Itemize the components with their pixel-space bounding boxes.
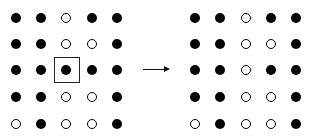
right-cell-r3c4-filled-dot-icon (291, 92, 301, 102)
right-cell-r4c0-hollow-dot-icon (190, 119, 200, 129)
right-cell-r1c4-filled-dot-icon (291, 39, 301, 49)
right-cell-r1c3-hollow-dot-icon (266, 39, 276, 49)
right-cell-r0c0-filled-dot-icon (190, 13, 200, 23)
right-cell-r0c2-hollow-dot-icon (241, 13, 251, 23)
right-grid (0, 0, 135, 139)
right-cell-r4c2-hollow-dot-icon (241, 119, 251, 129)
right-cell-r2c3-filled-dot-icon (266, 65, 276, 75)
right-cell-r3c3-hollow-dot-icon (266, 92, 276, 102)
right-cell-r2c4-filled-dot-icon (291, 65, 301, 75)
right-cell-r0c1-filled-dot-icon (215, 13, 225, 23)
right-cell-r2c2-hollow-dot-icon (241, 65, 251, 75)
arrow-head (164, 66, 170, 72)
right-cell-r1c0-filled-dot-icon (190, 39, 200, 49)
right-cell-r1c1-filled-dot-icon (215, 39, 225, 49)
right-cell-r3c2-hollow-dot-icon (241, 92, 251, 102)
right-arrow-icon (143, 69, 170, 71)
right-cell-r4c3-hollow-dot-icon (266, 119, 276, 129)
right-cell-r2c1-filled-dot-icon (215, 65, 225, 75)
right-cell-r3c0-filled-dot-icon (190, 92, 200, 102)
right-cell-r0c3-filled-dot-icon (266, 13, 276, 23)
right-cell-r0c4-filled-dot-icon (291, 13, 301, 23)
right-cell-r1c2-hollow-dot-icon (241, 39, 251, 49)
right-cell-r2c0-filled-dot-icon (190, 65, 200, 75)
right-cell-r4c4-filled-dot-icon (291, 119, 301, 129)
right-cell-r4c1-filled-dot-icon (215, 119, 225, 129)
right-cell-r3c1-filled-dot-icon (215, 92, 225, 102)
arrow-shaft (143, 69, 166, 70)
